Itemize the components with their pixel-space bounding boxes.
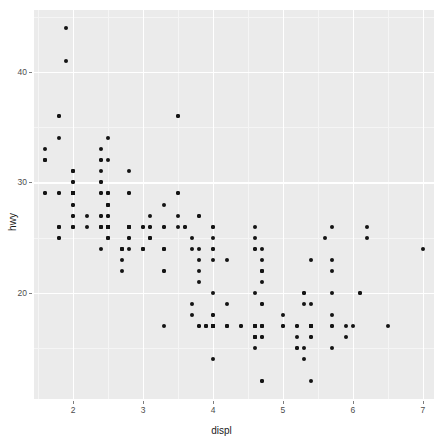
- gridline-vertical-minor: [38, 10, 39, 399]
- data-point: [302, 291, 306, 295]
- data-point: [176, 191, 180, 195]
- data-point: [162, 247, 166, 251]
- data-point: [176, 114, 180, 118]
- data-point: [197, 280, 201, 284]
- data-point: [309, 379, 313, 383]
- y-axis-title: hwy: [7, 210, 18, 234]
- data-point: [295, 335, 299, 339]
- data-point: [148, 214, 152, 218]
- gridline-vertical-minor: [388, 10, 389, 399]
- data-point: [190, 313, 194, 317]
- x-tick-mark: [143, 401, 144, 404]
- data-point: [197, 247, 201, 251]
- data-point: [148, 225, 152, 229]
- data-point: [211, 247, 215, 251]
- data-point: [99, 247, 103, 251]
- data-point: [358, 291, 362, 295]
- data-point: [106, 225, 110, 229]
- data-point: [211, 236, 215, 240]
- gridline-horizontal-major: [34, 72, 434, 73]
- data-point: [253, 324, 257, 328]
- data-point: [302, 302, 306, 306]
- plot-panel: [34, 10, 434, 399]
- gridline-vertical-minor: [248, 10, 249, 399]
- data-point: [309, 302, 313, 306]
- data-point: [197, 324, 201, 328]
- data-point: [351, 324, 355, 328]
- data-point: [57, 114, 61, 118]
- data-point: [106, 136, 110, 140]
- y-tick-label: 20: [18, 288, 27, 298]
- x-tick-label: 7: [420, 405, 425, 415]
- data-point: [295, 346, 299, 350]
- data-point: [330, 258, 334, 262]
- data-point: [148, 236, 152, 240]
- data-point: [127, 236, 131, 240]
- x-tick-mark: [283, 401, 284, 404]
- gridline-horizontal-minor: [34, 127, 434, 128]
- data-point: [211, 357, 215, 361]
- data-point: [211, 324, 215, 328]
- data-point: [330, 225, 334, 229]
- y-tick-mark: [29, 293, 32, 294]
- data-point: [43, 147, 47, 151]
- data-point: [281, 313, 285, 317]
- data-point: [106, 158, 110, 162]
- data-point: [421, 247, 425, 251]
- x-tick-label: 6: [351, 405, 356, 415]
- data-point: [43, 191, 47, 195]
- data-point: [71, 191, 75, 195]
- y-tick-mark: [29, 72, 32, 73]
- gridline-horizontal-major: [34, 182, 434, 183]
- gridline-vertical-major: [353, 10, 354, 399]
- data-point: [302, 357, 306, 361]
- data-point: [260, 258, 264, 262]
- x-tick-mark: [423, 401, 424, 404]
- data-point: [225, 324, 229, 328]
- data-point: [183, 225, 187, 229]
- data-point: [281, 324, 285, 328]
- data-point: [57, 225, 61, 229]
- data-point: [99, 169, 103, 173]
- gridline-vertical-minor: [318, 10, 319, 399]
- data-point: [330, 291, 334, 295]
- data-point: [204, 324, 208, 328]
- data-point: [260, 247, 264, 251]
- data-point: [211, 291, 215, 295]
- data-point: [99, 225, 103, 229]
- data-point: [260, 269, 264, 273]
- data-point: [106, 191, 110, 195]
- data-point: [106, 236, 110, 240]
- data-point: [71, 214, 75, 218]
- data-point: [330, 313, 334, 317]
- gridline-horizontal-minor: [34, 348, 434, 349]
- data-point: [323, 236, 327, 240]
- data-point: [260, 280, 264, 284]
- data-point: [64, 59, 68, 63]
- data-point: [71, 225, 75, 229]
- data-point: [120, 269, 124, 273]
- x-axis-title: displ: [0, 425, 443, 436]
- data-point: [162, 324, 166, 328]
- data-point: [99, 158, 103, 162]
- data-point: [344, 324, 348, 328]
- data-point: [162, 225, 166, 229]
- x-tick-label: 5: [281, 405, 286, 415]
- gridline-horizontal-minor: [34, 17, 434, 18]
- data-point: [106, 203, 110, 207]
- data-point: [253, 335, 257, 339]
- data-point: [99, 180, 103, 184]
- data-point: [309, 324, 313, 328]
- data-point: [365, 236, 369, 240]
- data-point: [99, 147, 103, 151]
- x-tick-mark: [353, 401, 354, 404]
- data-point: [71, 203, 75, 207]
- data-point: [295, 324, 299, 328]
- gridline-horizontal-minor: [34, 238, 434, 239]
- scatter-plot-figure: hwy displ 234567203040: [0, 0, 443, 443]
- data-point: [127, 247, 131, 251]
- x-tick-label: 4: [211, 405, 216, 415]
- gridline-horizontal-major: [34, 293, 434, 294]
- data-point: [344, 335, 348, 339]
- data-point: [330, 346, 334, 350]
